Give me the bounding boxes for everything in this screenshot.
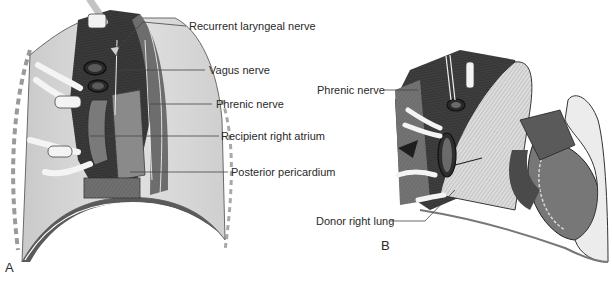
panel-a-illustration <box>0 0 612 286</box>
label-recurrent-laryngeal-nerve: Recurrent laryngeal nerve <box>189 20 316 32</box>
panel-letter-b: B <box>381 238 390 253</box>
label-posterior-pericardium: Posterior pericardium <box>231 166 336 178</box>
figure: Recurrent laryngeal nerve Vagus nerve Ph… <box>0 0 612 286</box>
label-recipient-right-atrium: Recipient right atrium <box>221 130 325 142</box>
panel-letter-a: A <box>5 260 14 275</box>
label-donor-right-lung: Donor right lung <box>316 215 394 227</box>
label-vagus-nerve: Vagus nerve <box>209 64 270 76</box>
label-phrenic-nerve-b: Phrenic nerve <box>317 84 385 96</box>
label-phrenic-nerve-a: Phrenic nerve <box>216 98 284 110</box>
